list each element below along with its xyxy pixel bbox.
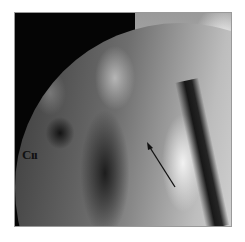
arrow-icon [0,0,245,242]
